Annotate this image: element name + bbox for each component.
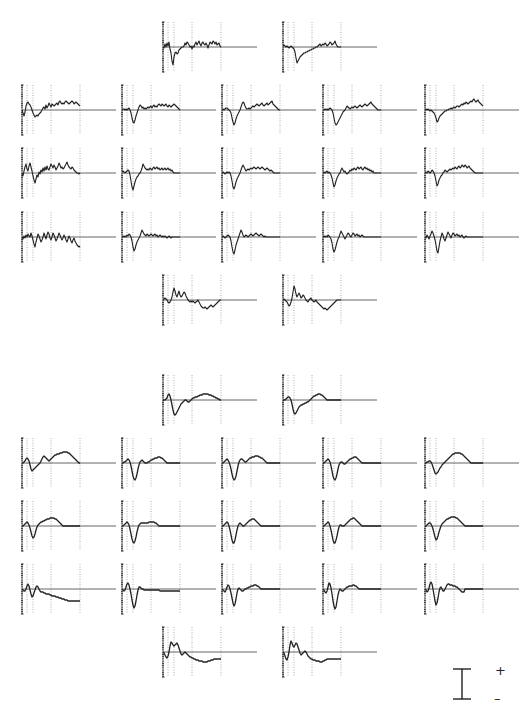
waveform-trace xyxy=(323,231,381,252)
waveform-panel xyxy=(282,375,377,425)
waveform-trace xyxy=(163,394,221,415)
waveform-panel xyxy=(121,212,216,262)
waveform-panel xyxy=(282,627,377,677)
waveform-trace xyxy=(222,165,280,189)
waveform-panel xyxy=(322,438,417,488)
waveform-panel xyxy=(221,438,316,488)
waveform-trace xyxy=(22,162,80,183)
waveform-panel xyxy=(21,148,116,198)
waveform-panel xyxy=(282,22,377,72)
amplitude-scale-bar xyxy=(453,669,471,699)
waveform-panel xyxy=(162,22,257,72)
waveform-panel xyxy=(162,627,257,677)
waveform-panels xyxy=(21,22,519,677)
waveform-panel xyxy=(424,564,519,614)
waveform-panel xyxy=(121,501,216,551)
waveform-panel xyxy=(424,501,519,551)
waveform-panel xyxy=(424,438,519,488)
waveform-trace xyxy=(222,585,280,606)
upper-group-noisy xyxy=(21,22,519,325)
waveform-panel xyxy=(424,212,519,262)
waveform-panel xyxy=(121,148,216,198)
waveform-panel xyxy=(162,275,257,325)
waveform-panel xyxy=(221,564,316,614)
waveform-panel xyxy=(322,501,417,551)
polarity-plus-label: + xyxy=(495,664,506,677)
waveform-figure xyxy=(0,0,531,711)
waveform-trace xyxy=(122,522,180,543)
waveform-panel xyxy=(121,438,216,488)
lower-group-averaged xyxy=(21,375,519,677)
waveform-panel xyxy=(21,501,116,551)
waveform-panel xyxy=(282,275,377,325)
waveform-panel xyxy=(121,85,216,135)
waveform-panel xyxy=(162,375,257,425)
waveform-panel xyxy=(322,85,417,135)
waveform-panel xyxy=(322,212,417,262)
waveform-panel xyxy=(21,438,116,488)
waveform-panel xyxy=(322,564,417,614)
waveform-panel xyxy=(424,85,519,135)
waveform-panel xyxy=(21,564,116,614)
waveform-panel xyxy=(221,85,316,135)
waveform-panel xyxy=(221,148,316,198)
waveform-trace xyxy=(283,641,341,662)
waveform-panel xyxy=(424,148,519,198)
polarity-minus-label: – xyxy=(494,692,501,705)
waveform-panel xyxy=(21,85,116,135)
waveform-panel xyxy=(322,148,417,198)
waveform-panel xyxy=(221,501,316,551)
waveform-panel xyxy=(21,212,116,262)
waveform-panel xyxy=(121,564,216,614)
waveform-panel xyxy=(221,212,316,262)
